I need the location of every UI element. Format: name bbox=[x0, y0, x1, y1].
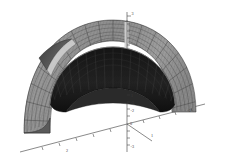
tick-label-right-1: 1 bbox=[151, 133, 153, 138]
tick-label-z-1: 1 bbox=[131, 93, 133, 98]
tick-label-z-top: 3 bbox=[132, 11, 134, 16]
tick-label-z-minus1: -1 bbox=[131, 100, 135, 105]
z-axis-light-strip bbox=[125, 22, 129, 48]
tick-label-far-right-minus2: -2 bbox=[187, 108, 191, 113]
figure-container: 25. bbox=[0, 0, 226, 160]
tick-label-origin: 0 bbox=[130, 121, 132, 126]
tick-label-z-bottom: -3 bbox=[131, 144, 135, 149]
tick-label-z-minus2: -2 bbox=[131, 108, 135, 113]
surface-plot: 3 1 -1 -2 0 -3 2 1 -2 bbox=[0, 0, 226, 160]
tick-label-left-2: 2 bbox=[66, 148, 68, 153]
